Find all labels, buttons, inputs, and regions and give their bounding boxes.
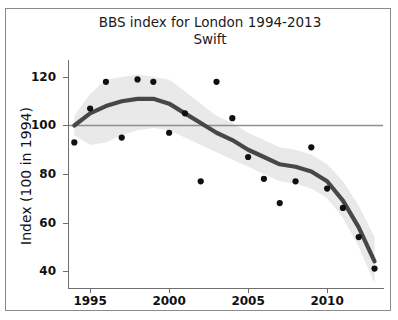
x-tick-label-2000: 2000 (152, 294, 185, 308)
chart-canvas (68, 60, 384, 288)
confidence-band (74, 75, 374, 284)
data-point-2007 (277, 200, 283, 206)
y-tick-label-100: 100 (31, 118, 56, 132)
data-point-2008 (292, 178, 298, 184)
data-point-2004 (229, 115, 235, 121)
data-point-1996 (103, 79, 109, 85)
y-tick-label-40: 40 (39, 264, 56, 278)
data-point-1994 (71, 139, 77, 145)
data-point-1997 (119, 135, 125, 141)
data-point-1995 (87, 105, 93, 111)
y-tick-100: 100 (63, 125, 68, 126)
x-tick-label-2005: 2005 (231, 294, 264, 308)
x-tick-2010 (327, 288, 328, 293)
x-tick-1995 (90, 288, 91, 293)
x-axis-line (68, 288, 384, 289)
y-tick-60: 60 (63, 223, 68, 224)
chart-figure: BBS index for London 1994-2013 Swift Ind… (0, 0, 398, 320)
y-tick-label-80: 80 (39, 167, 56, 181)
data-point-2011 (340, 205, 346, 211)
y-axis-line (68, 60, 69, 288)
x-tick-label-2010: 2010 (310, 294, 343, 308)
data-point-2003 (213, 79, 219, 85)
data-point-1999 (150, 79, 156, 85)
data-point-2012 (356, 234, 362, 240)
data-point-2001 (182, 110, 188, 116)
y-tick-80: 80 (63, 174, 68, 175)
y-tick-label-120: 120 (31, 70, 56, 84)
y-tick-label-60: 60 (39, 216, 56, 230)
data-point-2000 (166, 130, 172, 136)
y-tick-40: 40 (63, 271, 68, 272)
x-tick-label-1995: 1995 (73, 294, 106, 308)
data-point-2002 (198, 178, 204, 184)
x-tick-2005 (248, 288, 249, 293)
y-tick-120: 120 (63, 77, 68, 78)
plot-area: 406080100120 1995200020052010 (68, 60, 384, 288)
y-axis-label: Index (100 in 1994) (18, 76, 34, 276)
x-tick-2000 (169, 288, 170, 293)
chart-title: BBS index for London 1994-2013 Swift (40, 14, 380, 48)
data-point-2010 (324, 185, 330, 191)
data-point-2009 (308, 144, 314, 150)
data-point-2005 (245, 154, 251, 160)
data-point-2006 (261, 176, 267, 182)
data-point-2013 (371, 265, 377, 271)
data-point-1998 (134, 76, 140, 82)
